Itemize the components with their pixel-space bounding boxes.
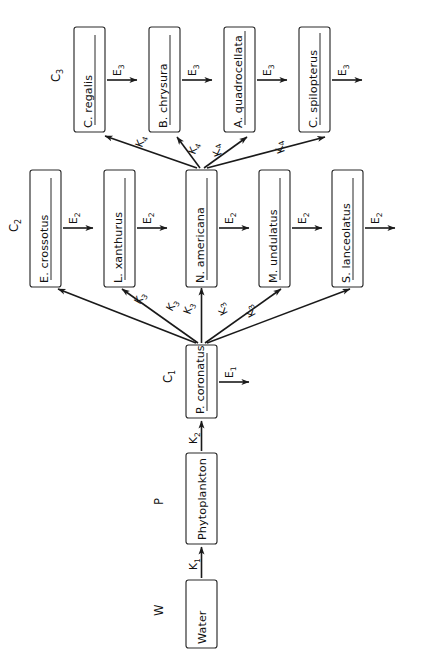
c-spilopterus-box-label: C. spilopterus [307,50,320,128]
node-s-lanceolatus: S. lanceolatus [332,170,363,287]
node-l-xanthurus: L. xanthurus [104,170,135,287]
food-web-diagram: Water W K1 Phytoplankton P K2 P. coronat… [0,0,425,658]
node-m-undulatus: M. undulatus [259,170,290,287]
flow-k4-c-regalis [105,136,197,168]
rate-label-e1: E1 [223,366,238,378]
rate-label-e2-b: E2 [141,212,156,224]
e-crossotus-box-label: E. crossotus [38,214,51,283]
rate-label-e3-a: E3 [111,64,126,76]
b-chrysura-box-label: B. chrysura [157,63,170,128]
rate-label-e2-d: E2 [296,212,311,224]
m-undulatus-box-label: M. undulatus [267,209,280,283]
rate-label-k3-d: K3 [214,300,233,317]
p-coronatus-box-label: P. coronatus [194,345,207,414]
group-label-w: W [152,604,166,616]
rate-label-e2-a: E2 [67,212,82,224]
rate-label-k4-b: K4 [186,140,204,156]
water-box-label: Water [196,610,209,644]
node-c-spilopterus: C. spilopterus [299,27,330,132]
rate-label-k2: K2 [187,432,202,444]
rate-label-e2-e: E2 [369,212,384,224]
node-phytoplankton: Phytoplankton [186,453,217,544]
flow-k3-e-crossotus [58,289,196,343]
l-xanthurus-box-label: L. xanthurus [112,212,125,283]
rate-label-e2-c: E2 [223,212,238,224]
group-label-p: P [152,498,166,505]
group-label-c3: C3 [49,69,65,82]
s-lanceolatus-box-label: S. lanceolatus [340,203,353,283]
group-label-c1: C1 [161,370,177,383]
node-c-regalis: C. regalis [74,27,105,132]
node-b-chrysura: B. chrysura [149,27,180,132]
rate-label-e3-b: E3 [186,64,201,76]
n-americana-box-label: N. americana [194,207,207,283]
diagram-canvas: Water W K1 Phytoplankton P K2 P. coronat… [0,0,425,658]
node-a-quadrocellata: A. quadrocellata [224,27,255,132]
rate-label-k3-a: K3 [131,290,150,308]
rate-label-k4-c: K4 [209,142,227,158]
node-p-coronatus: P. coronatus [186,345,217,418]
phytoplankton-box-label: Phytoplankton [196,458,209,540]
rate-label-e3-d: E3 [336,64,351,76]
flow-k3-s-lanceolatus [207,289,350,343]
c-regalis-box-label: C. regalis [82,75,95,128]
group-label-c2: C2 [7,219,23,232]
node-e-crossotus: E. crossotus [30,170,61,287]
rate-label-k3-c: K3 [181,300,199,316]
rate-label-k3-b: K3 [163,297,182,315]
rate-label-k1: K1 [187,558,202,570]
a-quadrocellata-box-label: A. quadrocellata [232,35,245,128]
node-water: Water [186,580,217,648]
rate-label-e3-c: E3 [261,64,276,76]
flow-k3-m-undulatus [205,289,281,343]
node-n-americana: N. americana [186,170,217,287]
